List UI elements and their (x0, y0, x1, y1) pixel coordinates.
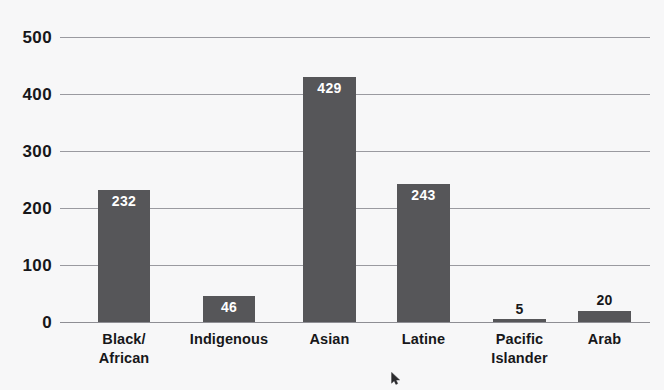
bar: 232 (98, 190, 150, 322)
y-axis-tick-label: 400 (6, 86, 52, 103)
mouse-pointer-icon (391, 372, 402, 385)
category-label-line: Black/ (64, 330, 184, 349)
y-axis-tick-label: 0 (6, 314, 52, 331)
bar: 243 (397, 184, 450, 323)
y-axis: 5004003002001000 (0, 37, 52, 322)
x-axis-category-label: Black/African (64, 330, 184, 367)
x-axis-category-label: Arab (545, 330, 664, 349)
bar: 429 (303, 77, 356, 322)
y-axis-tick-label: 500 (6, 29, 52, 46)
bar-chart: 5004003002001000 23246429243520 Black/Af… (0, 0, 664, 390)
x-axis-baseline (60, 322, 650, 323)
bar-value-label: 5 (493, 302, 546, 317)
bar-value-label: 46 (203, 300, 255, 315)
plot-area: 23246429243520 (60, 37, 650, 322)
category-label-line: Islander (460, 349, 580, 368)
bar-value-label: 232 (98, 194, 150, 209)
gridline (60, 37, 650, 38)
y-axis-tick-label: 200 (6, 200, 52, 217)
bar-value-label: 243 (397, 188, 450, 203)
bar: 20 (578, 311, 631, 322)
y-axis-tick-label: 100 (6, 257, 52, 274)
category-label-line: Arab (545, 330, 664, 349)
y-axis-tick-label: 300 (6, 143, 52, 160)
bar-value-label: 429 (303, 81, 356, 96)
bar-value-label: 20 (578, 293, 631, 308)
category-label-line: African (64, 349, 184, 368)
bar: 46 (203, 296, 255, 322)
bar: 5 (493, 319, 546, 322)
